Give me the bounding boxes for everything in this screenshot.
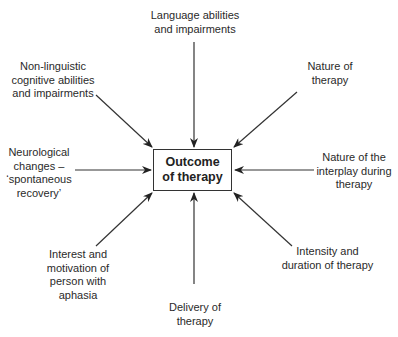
arrow-non-linguistic [96,95,152,147]
arrow-intensity [234,193,292,246]
factor-non-linguistic: Non-linguistic cognitive abilities and i… [3,60,103,101]
arrow-nature-of-therapy [234,92,297,147]
arrow-interest [96,193,152,246]
outcome-of-therapy-box: Outcome of therapy [153,149,232,191]
factor-nature-of-therapy: Nature of therapy [290,60,370,87]
factor-language: Language abilities and impairments [140,9,250,36]
factor-interest: Interest and motivation of person with a… [33,248,123,302]
factor-neurological: Neurological changes – ‘spontaneous reco… [4,146,74,200]
factor-delivery: Delivery of therapy [155,301,235,328]
factor-intensity: Intensity and duration of therapy [270,245,385,272]
factor-interplay: Nature of the interplay during therapy [310,151,398,192]
